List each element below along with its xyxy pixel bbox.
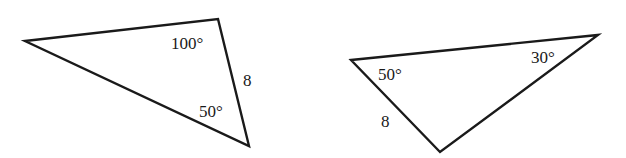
right-triangle-shape bbox=[351, 35, 598, 152]
right-angle-50-label: 50° bbox=[378, 65, 402, 84]
right-angle-30-label: 30° bbox=[531, 48, 555, 67]
left-triangle-shape bbox=[25, 19, 249, 146]
triangles-diagram: 100° 8 50° 50° 30° 8 bbox=[0, 0, 626, 158]
right-triangle: 50° 30° 8 bbox=[351, 35, 598, 152]
left-triangle: 100° 8 50° bbox=[25, 19, 252, 146]
right-side-8-label: 8 bbox=[381, 112, 390, 131]
left-angle-50-label: 50° bbox=[199, 102, 223, 121]
left-angle-100-label: 100° bbox=[171, 34, 203, 53]
left-side-8-label: 8 bbox=[243, 71, 252, 90]
